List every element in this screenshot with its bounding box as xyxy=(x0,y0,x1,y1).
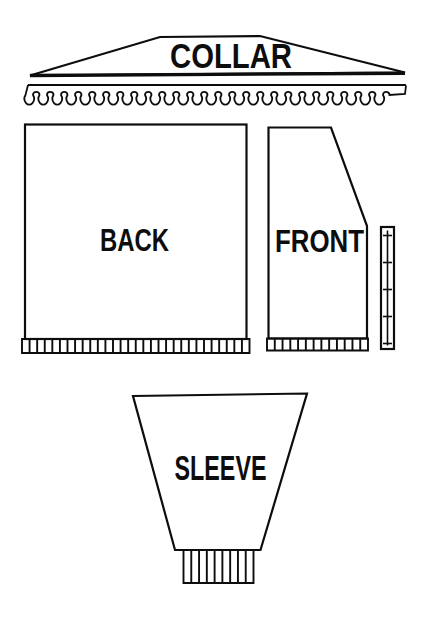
collar-piece: COLLAR xyxy=(30,36,405,76)
front-ribbing xyxy=(267,339,368,351)
sleeve-label: SLEEVE xyxy=(175,448,267,487)
sleeve-cuff-ribbing xyxy=(184,550,254,583)
front-label: FRONT xyxy=(275,223,364,259)
front-piece: FRONT xyxy=(267,128,368,351)
sleeve-piece: SLEEVE xyxy=(133,394,307,584)
back-piece: BACK xyxy=(22,125,250,354)
pattern-diagram-canvas: COLLAR BACK FRONT SLEEVE xyxy=(0,0,430,621)
button-band-piece xyxy=(381,227,394,349)
pattern-diagram: COLLAR BACK FRONT SLEEVE xyxy=(0,0,430,621)
collar-trim-scallop-edge xyxy=(25,85,407,105)
back-label: BACK xyxy=(100,222,169,258)
collar-label: COLLAR xyxy=(170,36,292,75)
back-ribbing xyxy=(22,339,250,353)
collar-trim xyxy=(25,85,407,105)
